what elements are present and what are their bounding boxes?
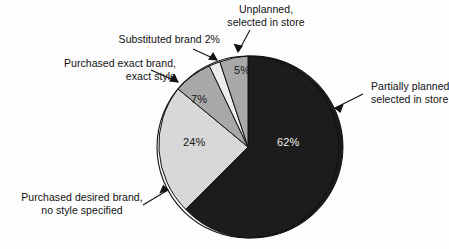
callout-label-purchased-exact-brand: Purchased exact brand, exact style [48, 57, 176, 82]
callout-label-purchased-desired-brand: Purchased desired brand, no style specif… [8, 191, 156, 216]
callout-label-partially-planned: Partially planned, selected in store [371, 80, 447, 105]
leader-arrow-substituted [209, 53, 217, 60]
pie-chart-figure: Unplanned, selected in store Substituted… [0, 0, 449, 249]
slice-value-unplanned: 5% [234, 64, 250, 76]
slice-value-partially-planned: 62% [277, 136, 299, 148]
callout-label-substituted-brand: Substituted brand 2% [88, 33, 220, 46]
slice-value-purchased-exact-brand: 7% [191, 93, 207, 105]
callout-label-unplanned: Unplanned, selected in store [212, 3, 320, 28]
leader-arrow-unplanned [235, 45, 243, 52]
slice-value-purchased-desired-brand: 24% [183, 136, 205, 148]
leader-arrow-desired-brand [160, 186, 168, 193]
